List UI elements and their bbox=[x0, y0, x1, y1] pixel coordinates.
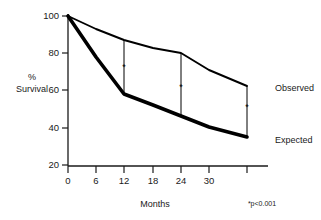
significance-marker-12mo: * bbox=[122, 40, 126, 94]
x-axis-title: Months bbox=[140, 199, 170, 209]
asterisk-icon-36mo: * bbox=[245, 102, 249, 112]
survival-curve-chart: 100 80 60 40 20 0 6 12 18 24 30 * * * bbox=[0, 0, 321, 220]
curve-observed bbox=[68, 16, 247, 86]
x-axis-tick-labels: 0 6 12 18 24 30 bbox=[65, 175, 214, 186]
y-tick-label-100: 100 bbox=[43, 10, 59, 21]
footnote-significance: *p<0.001 bbox=[248, 200, 276, 208]
y-axis-title: % Survival bbox=[16, 72, 48, 94]
significance-marker-36mo: * bbox=[245, 86, 249, 137]
y-tick-label-60: 60 bbox=[48, 84, 59, 95]
asterisk-icon-24mo: * bbox=[179, 82, 183, 92]
curve-expected bbox=[68, 16, 247, 137]
x-tick-label-12: 12 bbox=[119, 175, 130, 186]
y-tick-label-20: 20 bbox=[48, 159, 59, 170]
significance-marker-24mo: * bbox=[179, 53, 183, 116]
asterisk-icon-12mo: * bbox=[122, 62, 126, 72]
y-axis-ticks bbox=[62, 16, 68, 165]
x-tick-label-0: 0 bbox=[65, 175, 70, 186]
series-label-observed: Observed bbox=[275, 83, 314, 93]
x-tick-label-18: 18 bbox=[148, 175, 159, 186]
chart-axes bbox=[68, 14, 268, 166]
y-tick-label-40: 40 bbox=[48, 122, 59, 133]
x-tick-label-30: 30 bbox=[204, 175, 215, 186]
y-tick-label-80: 80 bbox=[48, 47, 59, 58]
x-tick-label-6: 6 bbox=[93, 175, 98, 186]
x-tick-label-24: 24 bbox=[176, 175, 187, 186]
x-axis-ticks bbox=[68, 166, 247, 173]
series-label-expected: Expected bbox=[275, 135, 313, 145]
y-axis-title-line1: % bbox=[28, 72, 36, 82]
y-axis-title-line2: Survival bbox=[16, 84, 48, 94]
